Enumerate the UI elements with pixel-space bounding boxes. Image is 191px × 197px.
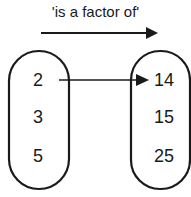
right-element: 15 xyxy=(144,107,184,128)
direction-arrow xyxy=(41,27,158,39)
left-element: 3 xyxy=(18,107,58,128)
left-element: 2 xyxy=(18,70,58,91)
right-element: 25 xyxy=(144,146,184,167)
mapping-arrow-2-14 xyxy=(59,74,149,86)
right-element: 14 xyxy=(144,70,184,91)
mapping-diagram xyxy=(0,0,191,197)
left-element: 5 xyxy=(18,146,58,167)
